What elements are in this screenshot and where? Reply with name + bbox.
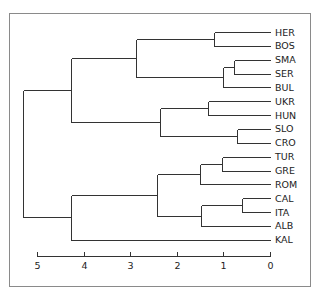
leaf-label-ukr: UKR <box>275 96 295 107</box>
x-axis: 543210 <box>34 252 273 271</box>
leaf-label-ser: SER <box>275 68 294 79</box>
leaf-label-sma: SMA <box>275 54 296 65</box>
leaf-label-slo: SLO <box>275 123 293 134</box>
leaf-labels: HERBOSSMASERBULUKRHUNSLOCROTURGREROMCALI… <box>274 27 297 246</box>
leaf-label-her: HER <box>275 27 295 38</box>
leaf-label-ita: ITA <box>275 207 290 218</box>
leaf-label-tur: TUR <box>274 151 295 162</box>
leaf-label-bos: BOS <box>275 40 295 51</box>
x-tick-label: 2 <box>174 260 180 271</box>
leaf-label-rom: ROM <box>275 179 297 190</box>
dendrogram: HERBOSSMASERBULUKRHUNSLOCROTURGREROMCALI… <box>0 0 320 294</box>
x-tick-label: 5 <box>34 260 40 271</box>
leaf-label-gre: GRE <box>275 165 295 176</box>
x-tick-label: 1 <box>220 260 226 271</box>
leaf-label-cal: CAL <box>275 193 294 204</box>
leaf-label-alb: ALB <box>275 220 293 231</box>
leaf-label-hun: HUN <box>275 110 296 121</box>
x-tick-label: 3 <box>127 260 133 271</box>
leaf-label-cro: CRO <box>275 137 296 148</box>
x-tick-label: 4 <box>81 260 87 271</box>
leaf-label-bul: BUL <box>275 82 294 93</box>
x-tick-label: 0 <box>267 260 273 271</box>
dendrogram-links <box>24 33 271 241</box>
leaf-label-kal: KAL <box>275 234 294 245</box>
